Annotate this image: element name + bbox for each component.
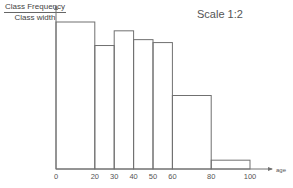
x-tick-label: 20 [91, 172, 99, 181]
histogram-bar [153, 43, 172, 169]
x-axis-label: age [276, 167, 287, 173]
histogram-bar [172, 96, 211, 170]
x-tick-labels: 0203040506080100 [54, 172, 256, 181]
histogram-chart: age 0203040506080100 [0, 0, 293, 188]
histogram-bar [56, 22, 95, 169]
histogram-bar [211, 160, 250, 169]
histogram-bar [134, 40, 153, 169]
x-tick-label: 0 [54, 172, 58, 181]
bars [56, 22, 250, 169]
x-tick-label: 60 [168, 172, 176, 181]
histogram-bar [114, 31, 133, 169]
x-tick-label: 50 [149, 172, 157, 181]
x-tick-label: 80 [207, 172, 215, 181]
x-tick-label: 40 [129, 172, 137, 181]
x-tick-label: 100 [244, 172, 257, 181]
x-axis-arrow-icon [268, 167, 273, 171]
axes: age [54, 5, 287, 173]
y-axis-arrow-icon [54, 5, 58, 10]
x-tick-label: 30 [110, 172, 118, 181]
histogram-bar [95, 46, 114, 169]
